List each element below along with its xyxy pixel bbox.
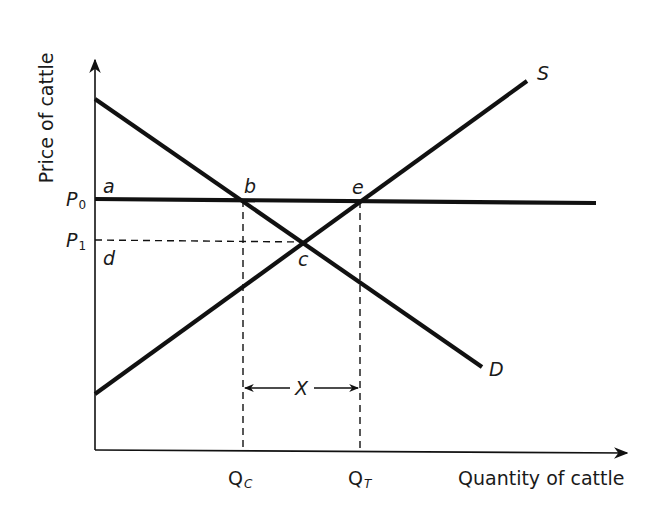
supply-curve (95, 81, 527, 394)
x-axis (95, 450, 627, 453)
point-e-label: e (352, 178, 364, 197)
p0-price-line (95, 199, 596, 203)
qc-label: QC (228, 469, 252, 490)
p1-label: P1 (66, 231, 86, 252)
point-c-label: c (298, 250, 308, 269)
supply-demand-diagram (0, 0, 660, 505)
point-a-label: a (103, 177, 115, 196)
p1-dashed-line (95, 240, 303, 242)
p0-label: P0 (66, 190, 86, 211)
demand-label: D (489, 360, 504, 379)
point-b-label: b (244, 177, 256, 196)
demand-curve (95, 99, 482, 367)
point-d-label: d (103, 249, 115, 268)
x-gap-label: X (295, 379, 308, 398)
x-axis-label: Quantity of cattle (458, 469, 624, 488)
qt-label: QT (348, 469, 371, 490)
supply-label: S (537, 64, 549, 83)
y-axis-label: Price of cattle (35, 53, 57, 184)
